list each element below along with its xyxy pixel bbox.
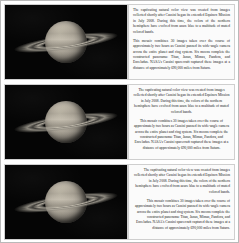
caption-paragraph-two: This mosaic combines 30 images taken ove…: [133, 119, 230, 152]
panel-three: The captivating natural color view was c…: [4, 164, 235, 240]
caption-paragraph-one: The captivating natural color view was c…: [133, 8, 230, 35]
saturn-image-three: [4, 164, 128, 240]
panel-two: The captivating natural color view was c…: [4, 84, 235, 160]
caption-pane-three: The captivating natural color view was c…: [128, 164, 235, 240]
caption-paragraph-one: The captivating natural color view was c…: [133, 88, 230, 115]
caption-pane-two: The captivating natural color view was c…: [128, 84, 235, 160]
saturn-image-one: [4, 4, 128, 80]
saturn-ring-system: [12, 91, 120, 153]
panel-one: The captivating natural color view was c…: [4, 4, 235, 80]
caption-paragraph-one: The captivating natural color view was c…: [133, 168, 230, 195]
caption-pane-one: The captivating natural color view was c…: [128, 4, 235, 80]
saturn-ring-system: [12, 171, 120, 233]
document-page: The captivating natural color view was c…: [0, 0, 239, 243]
caption-paragraph-two: This mosaic combines 30 images taken ove…: [133, 39, 230, 72]
saturn-ring-system: [12, 11, 120, 73]
saturn-image-two: [4, 84, 128, 160]
caption-paragraph-two: This mosaic combines 30 images taken ove…: [133, 199, 230, 232]
